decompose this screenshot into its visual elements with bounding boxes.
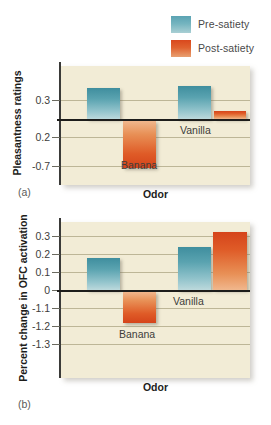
bar-panel-a-banana-pre-satiety xyxy=(87,88,120,119)
panel-a-group-label-banana: Banana xyxy=(121,159,157,171)
panel-a-ticklabel--0.7: -0.7 xyxy=(32,160,50,172)
panel-b-ticklabel-0.1: 0.1 xyxy=(35,266,50,278)
legend-label-post-satiety: Post-satiety xyxy=(198,42,254,54)
figure-satiety-odor: Pre-satiety Post-satiety Pleasantness ra… xyxy=(0,0,271,425)
panel-b-tick-0.2 xyxy=(52,254,60,255)
panel-a-tick--0.7 xyxy=(52,166,60,167)
panel-b-ticklabel--1.2: -1.2 xyxy=(32,320,50,332)
bar-panel-b-banana-pre-satiety xyxy=(87,258,120,291)
panel-a-x-axis-title: Odor xyxy=(61,188,250,200)
panel-b-ticklabel-0.2: 0.2 xyxy=(35,248,50,260)
panel-b-group-label-vanilla: Vanilla xyxy=(173,295,204,307)
bar-panel-b-banana-post-satiety xyxy=(123,292,156,324)
chart-panel-a: Pleasantness ratings Banana Vanilla 0.3 … xyxy=(0,62,271,202)
panel-a-group-label-vanilla: Vanilla xyxy=(180,124,211,136)
legend-item-post-satiety: Post-satiety xyxy=(171,37,271,59)
panel-a-y-axis-title: Pleasantness ratings xyxy=(11,63,23,183)
panel-b-ticklabel--1.1: -1.1 xyxy=(32,302,50,314)
bar-panel-b-vanilla-post-satiety xyxy=(213,232,247,290)
panel-b-tick--1.1 xyxy=(52,308,60,309)
panel-a-caption: (a) xyxy=(18,186,31,198)
panel-b-tick--1.2 xyxy=(52,326,60,327)
panel-b-tick-0.1 xyxy=(52,272,60,273)
legend-item-pre-satiety: Pre-satiety xyxy=(171,13,271,35)
panel-b-tick-0.3 xyxy=(52,236,60,237)
panel-b-ticklabel-0: 0 xyxy=(44,284,50,296)
panel-b-group-label-banana: Banana xyxy=(119,328,155,340)
legend-label-pre-satiety: Pre-satiety xyxy=(198,18,249,30)
chart-panel-b: Percent change in OFC activation Banana … xyxy=(0,218,271,418)
legend-swatch-pre-satiety xyxy=(171,16,191,33)
panel-a-ticklabel-0.2: 0.2 xyxy=(35,131,50,143)
panel-b-gridline--1.2 xyxy=(61,326,250,327)
legend-swatch-post-satiety xyxy=(171,40,191,57)
panel-a-zero-line xyxy=(57,119,250,121)
bar-panel-a-vanilla-pre-satiety xyxy=(178,86,211,119)
panel-b-plot-area: Banana Vanilla xyxy=(61,222,250,378)
legend: Pre-satiety Post-satiety xyxy=(171,13,271,61)
panel-a-tick-0.3 xyxy=(52,100,60,101)
panel-b-tick--1.3 xyxy=(52,344,60,345)
panel-b-y-axis-title: Percent change in OFC activation xyxy=(17,213,29,383)
bar-panel-b-vanilla-pre-satiety xyxy=(178,247,211,291)
bar-panel-a-vanilla-post-satiety xyxy=(214,111,246,119)
panel-b-zero-line xyxy=(57,290,250,292)
panel-b-ticklabel--1.3: -1.3 xyxy=(32,338,50,350)
panel-b-gridline--1.3 xyxy=(61,344,250,345)
panel-b-x-axis-title: Odor xyxy=(61,381,250,393)
panel-a-plot-area: Banana Vanilla xyxy=(61,66,250,185)
panel-a-tick-0.2 xyxy=(52,137,60,138)
panel-b-ticklabel-0.3: 0.3 xyxy=(35,230,50,242)
panel-a-ticklabel-0.3: 0.3 xyxy=(35,94,50,106)
panel-b-caption: (b) xyxy=(18,398,31,410)
